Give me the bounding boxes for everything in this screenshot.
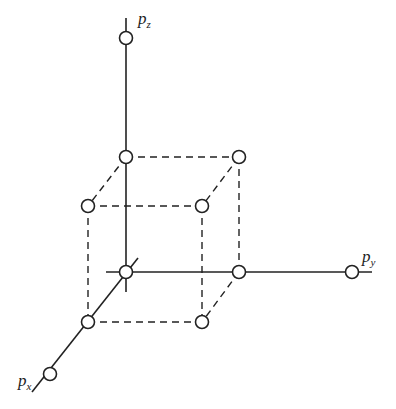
px-label: px [17,371,32,392]
lattice-nodes [44,32,359,381]
node [82,200,95,213]
node-px [44,368,57,381]
lattice-diagram: pz py px [0,0,396,409]
cube-edges [88,157,239,322]
node [233,151,246,164]
node-pz [120,32,133,45]
node [196,316,209,329]
node [82,316,95,329]
node [120,151,133,164]
node-origin [120,266,133,279]
py-label: py [361,247,376,268]
node [196,200,209,213]
pz-label: pz [137,9,152,30]
node-py [346,266,359,279]
node [233,266,246,279]
